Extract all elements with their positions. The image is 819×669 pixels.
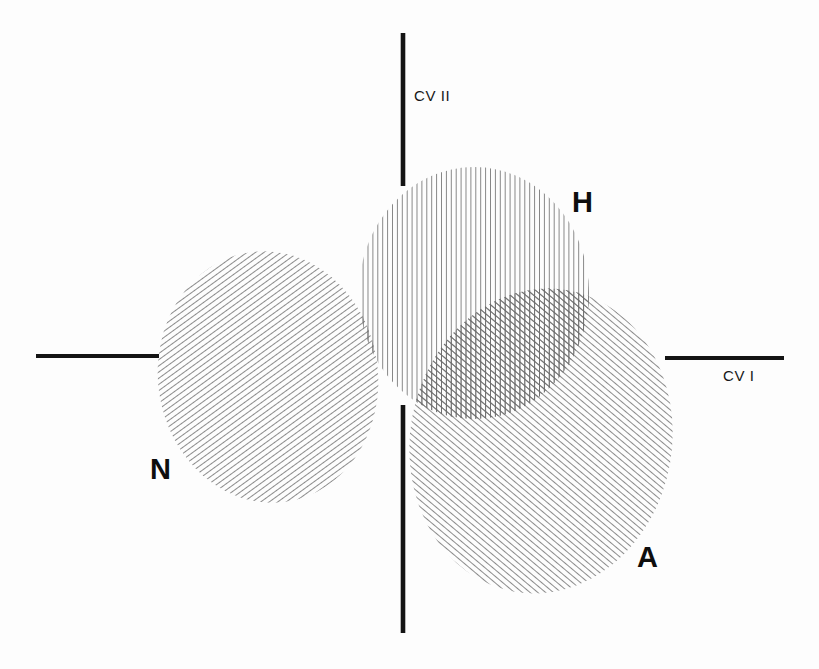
- group-label-h: H: [572, 186, 593, 218]
- group-label-a: A: [637, 541, 658, 573]
- canonical-variate-figure: CV I CV II N H A: [0, 0, 819, 669]
- figure-canvas: CV I CV II N H A: [0, 0, 819, 669]
- ellipse-layer: [142, 167, 697, 614]
- ellipse-n: [142, 237, 395, 517]
- cv1-axis-label: CV I: [723, 367, 755, 384]
- cv2-axis-label: CV II: [414, 87, 450, 104]
- group-label-n: N: [150, 453, 171, 485]
